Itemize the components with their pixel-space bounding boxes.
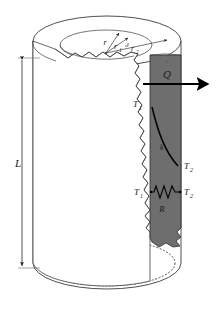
radius-r-label: r xyxy=(103,38,107,47)
temp-T2-resistor-group: T 2 xyxy=(184,187,193,199)
temp-T2-mid-subscript: 2 xyxy=(190,167,193,173)
temp-T2-resistor-subscript: 2 xyxy=(190,193,193,199)
radius-r2-subscript: 2 xyxy=(136,49,139,55)
figure-container: r r 1 r 2 Q ˙ T 1 k T 2 xyxy=(0,0,216,325)
conducting-wall-band xyxy=(150,54,181,247)
torn-white-region xyxy=(33,41,150,286)
heat-rate-label: Q xyxy=(163,68,171,80)
radius-r2-label: r xyxy=(131,44,135,53)
heat-rate-dot: ˙ xyxy=(165,59,168,69)
cylinder-heat-conduction-diagram: r r 1 r 2 Q ˙ T 1 k T 2 xyxy=(0,0,216,325)
temp-T1-top-subscript: 1 xyxy=(139,105,142,111)
radius-r1-subscript: 1 xyxy=(119,47,122,53)
length-label: L xyxy=(14,157,21,169)
radius-r1-label: r xyxy=(114,42,118,51)
temp-T2-mid-group: T 2 xyxy=(184,161,193,173)
cutaway-torn-section xyxy=(33,41,150,286)
right-angle-tick xyxy=(125,43,128,46)
temp-T1-resistor-subscript: 1 xyxy=(140,193,143,199)
resistance-label: R xyxy=(158,204,165,214)
